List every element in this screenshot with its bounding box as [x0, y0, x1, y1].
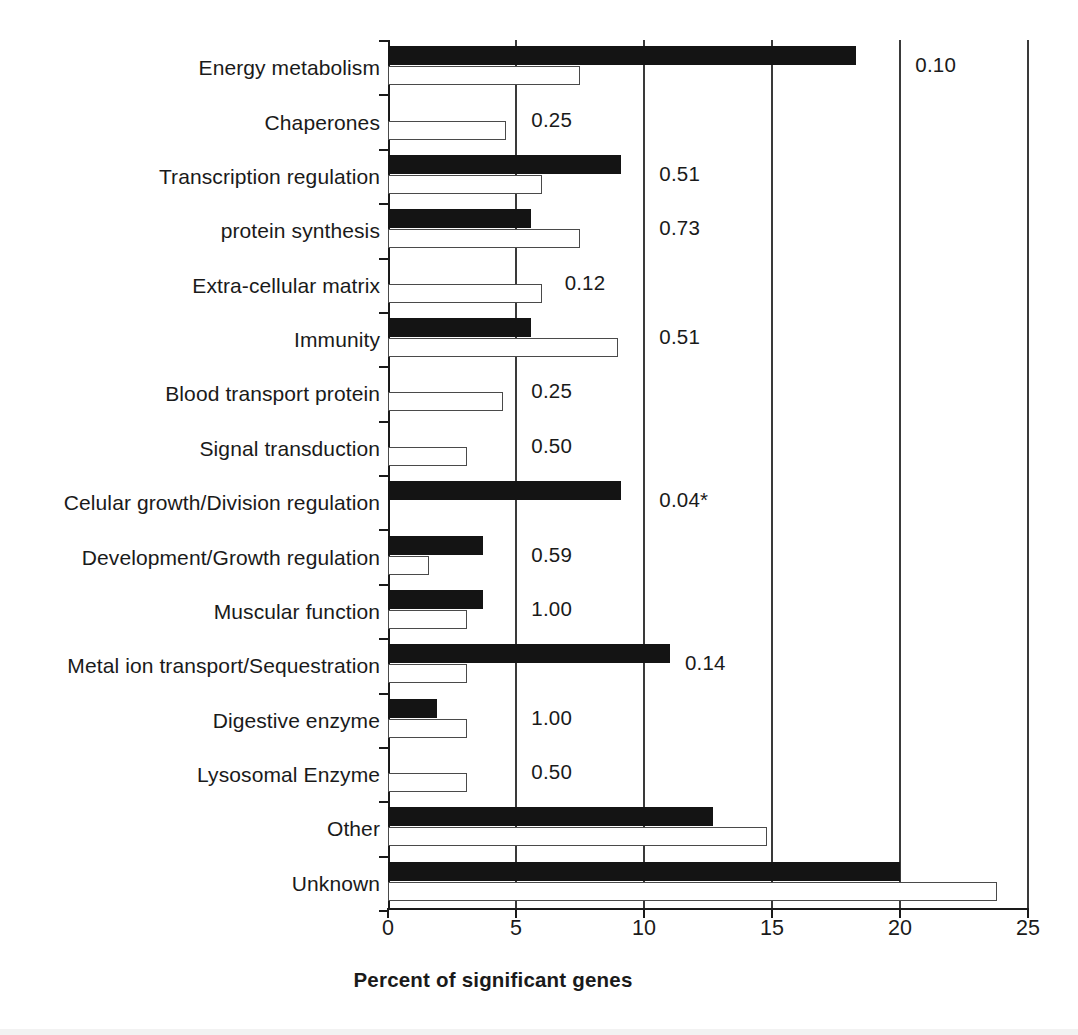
bar-white [388, 121, 506, 140]
bar-row: 0.25 [388, 94, 1028, 148]
y-tick-5 [379, 312, 388, 314]
bar-black [388, 155, 621, 174]
category-label: Blood transport protein [165, 383, 380, 404]
y-tick-10 [379, 584, 388, 586]
p-value-label: 0.50 [531, 762, 572, 783]
category-label: Chaperones [265, 112, 380, 133]
chart-page: 0.100.250.510.730.120.510.250.500.04*0.5… [0, 0, 1078, 1035]
category-label: Metal ion transport/Sequestration [67, 655, 380, 676]
x-tick-label-20: 20 [888, 918, 912, 940]
y-tick-2 [379, 149, 388, 151]
bar-row [388, 801, 1028, 855]
category-label: Extra-cellular matrix [192, 275, 380, 296]
bar-row: 0.59 [388, 529, 1028, 583]
category-label: Digestive enzyme [213, 710, 380, 731]
p-value-label: 0.14 [685, 653, 726, 674]
category-label: Other [327, 818, 380, 839]
bar-white [388, 827, 767, 846]
p-value-label: 0.51 [659, 327, 700, 348]
category-label: Immunity [294, 329, 380, 350]
x-tick-label-5: 5 [510, 918, 522, 940]
bar-white [388, 773, 467, 792]
bar-white [388, 284, 542, 303]
bar-white [388, 229, 580, 248]
category-label: Signal transduction [199, 438, 380, 459]
bar-row: 1.00 [388, 693, 1028, 747]
bar-white [388, 719, 467, 738]
y-tick-3 [379, 203, 388, 205]
y-tick-6 [379, 366, 388, 368]
bar-row: 0.51 [388, 312, 1028, 366]
bar-row: 0.25 [388, 366, 1028, 420]
p-value-label: 0.73 [659, 218, 700, 239]
y-tick-9 [379, 529, 388, 531]
plot-area: 0.100.250.510.730.120.510.250.500.04*0.5… [388, 40, 1028, 910]
bar-black [388, 318, 531, 337]
bar-white [388, 664, 467, 683]
bar-black [388, 46, 856, 65]
y-tick-7 [379, 421, 388, 423]
p-value-label: 0.10 [915, 55, 956, 76]
bar-row: 1.00 [388, 584, 1028, 638]
x-tick-label-15: 15 [760, 918, 784, 940]
bar-white [388, 447, 467, 466]
bar-row: 0.14 [388, 638, 1028, 692]
scan-edge-artifact [0, 1029, 1078, 1035]
bar-black [388, 699, 437, 718]
y-tick-11 [379, 638, 388, 640]
y-tick-13 [379, 747, 388, 749]
category-label: Muscular function [214, 601, 380, 622]
x-tick-label-0: 0 [382, 918, 394, 940]
bar-row: 0.12 [388, 258, 1028, 312]
bar-row [388, 856, 1028, 910]
bar-black [388, 807, 713, 826]
y-tick-16 [379, 910, 388, 912]
category-label: Transcription regulation [159, 166, 380, 187]
bar-row: 0.50 [388, 421, 1028, 475]
y-tick-4 [379, 258, 388, 260]
bar-white [388, 882, 997, 901]
p-value-label: 0.25 [531, 381, 572, 402]
y-tick-8 [379, 475, 388, 477]
x-axis-title: Percent of significant genes [0, 968, 1078, 992]
category-label: Celular growth/Division regulation [64, 492, 380, 513]
y-tick-12 [379, 693, 388, 695]
p-value-label: 0.12 [565, 273, 606, 294]
x-tick-label-10: 10 [632, 918, 656, 940]
p-value-label: 1.00 [531, 599, 572, 620]
bar-black [388, 862, 900, 881]
bar-white [388, 556, 429, 575]
category-label: Development/Growth regulation [82, 547, 380, 568]
x-tick-label-25: 25 [1016, 918, 1040, 940]
bar-row: 0.50 [388, 747, 1028, 801]
bar-white [388, 392, 503, 411]
bar-black [388, 209, 531, 228]
p-value-label: 1.00 [531, 708, 572, 729]
bar-row: 0.51 [388, 149, 1028, 203]
category-label: Unknown [292, 873, 380, 894]
p-value-label: 0.59 [531, 545, 572, 566]
bar-black [388, 481, 621, 500]
bar-black [388, 644, 670, 663]
bar-white [388, 175, 542, 194]
y-tick-15 [379, 856, 388, 858]
p-value-label: 0.04* [659, 490, 708, 511]
bar-row: 0.10 [388, 40, 1028, 94]
y-tick-1 [379, 94, 388, 96]
y-tick-0 [379, 40, 388, 42]
bar-white [388, 610, 467, 629]
bar-black [388, 590, 483, 609]
bar-white [388, 66, 580, 85]
category-label: protein synthesis [221, 220, 380, 241]
p-value-label: 0.25 [531, 110, 572, 131]
category-label: Lysosomal Enzyme [197, 764, 380, 785]
bar-white [388, 338, 618, 357]
bar-row: 0.73 [388, 203, 1028, 257]
p-value-label: 0.51 [659, 164, 700, 185]
bar-black [388, 536, 483, 555]
y-tick-14 [379, 801, 388, 803]
p-value-label: 0.50 [531, 436, 572, 457]
category-label: Energy metabolism [199, 57, 380, 78]
bar-row: 0.04* [388, 475, 1028, 529]
